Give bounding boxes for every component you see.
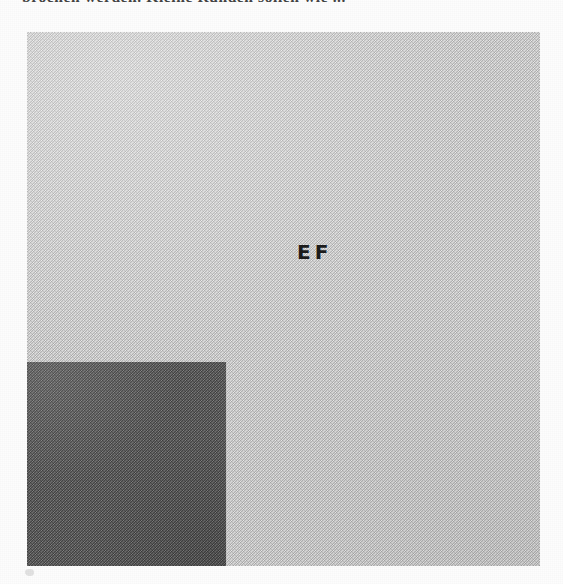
figure-label-ef: EF [297, 242, 332, 262]
scan-artifact-speck [25, 569, 34, 576]
dark-square-halftone-texture [27, 362, 226, 566]
cropped-body-text-line: brochen werden. Kleine Runden sollen wie… [0, 0, 563, 5]
figure-light-grey-plate: EF [27, 32, 540, 566]
cropped-body-text: brochen werden. Kleine Runden sollen wie… [0, 0, 563, 5]
figure-dark-grey-square [27, 362, 226, 566]
scanned-page: brochen werden. Kleine Runden sollen wie… [0, 0, 563, 584]
